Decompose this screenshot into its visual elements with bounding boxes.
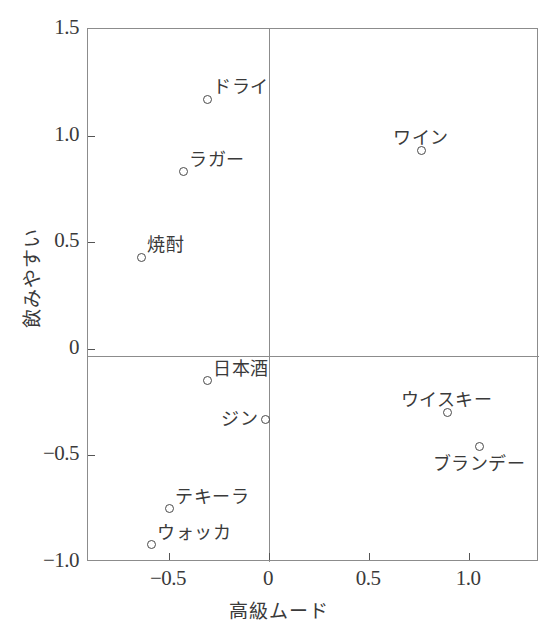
data-point-label: ジン	[221, 410, 258, 428]
data-point-marker	[137, 253, 146, 262]
data-point-marker	[475, 442, 484, 451]
y-tick-mark	[88, 455, 95, 456]
x-tick-label: 0.5	[328, 568, 408, 589]
data-point-label: テキーラ	[175, 488, 249, 506]
data-point-marker	[147, 540, 156, 549]
x-tick-mark	[469, 553, 470, 560]
x-tick-mark	[369, 553, 370, 560]
horizontal-zero-axis	[88, 356, 539, 357]
data-point-label: ブランデー	[433, 455, 526, 473]
data-point-marker	[203, 376, 212, 385]
y-tick-label: −0.5	[0, 443, 79, 464]
data-point-marker	[203, 95, 212, 104]
data-point-label: ウォッカ	[157, 524, 231, 542]
data-point-label: ウイスキー	[401, 391, 493, 409]
data-point-label: ドライ	[213, 78, 269, 96]
data-point-label: ラガー	[189, 151, 245, 169]
y-tick-mark	[88, 136, 95, 137]
data-point-marker	[261, 415, 270, 424]
y-tick-label: 1.5	[0, 17, 79, 38]
data-point-marker	[179, 167, 188, 176]
data-point-label: 日本酒	[213, 360, 269, 378]
data-point-label: 焼酎	[147, 236, 184, 254]
data-point-label: ワイン	[393, 129, 449, 147]
x-tick-mark	[269, 553, 270, 560]
x-tick-label: 1.0	[428, 568, 508, 589]
vertical-zero-axis	[269, 29, 270, 562]
x-tick-label: 0	[228, 568, 308, 589]
x-axis-title: 高級ムード	[0, 596, 558, 623]
y-axis-title: 飲みやすい	[17, 193, 44, 363]
y-tick-mark	[88, 242, 95, 243]
y-tick-mark	[88, 349, 95, 350]
y-tick-label: 1.0	[0, 124, 79, 145]
scatter-plot-figure: ドライワインラガー焼酎日本酒ジンウイスキーブランデーテキーラウォッカ 1.51.…	[0, 0, 558, 628]
y-tick-label: −1.0	[0, 550, 79, 571]
x-tick-mark	[169, 553, 170, 560]
data-point-marker	[165, 504, 174, 513]
x-tick-label: −0.5	[128, 568, 208, 589]
plot-area: ドライワインラガー焼酎日本酒ジンウイスキーブランデーテキーラウォッカ	[87, 28, 538, 561]
